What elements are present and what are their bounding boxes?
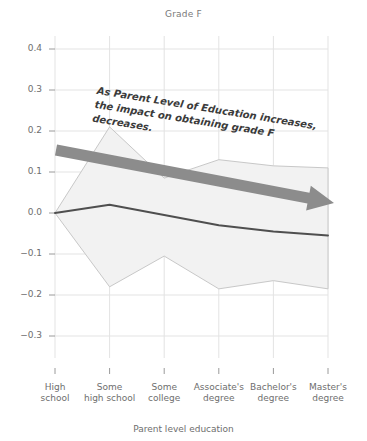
y-tick-label: −0.3 bbox=[8, 330, 42, 340]
y-tick-label: 0.3 bbox=[8, 84, 42, 94]
y-tick-label: 0.2 bbox=[8, 125, 42, 135]
y-tick-label: 0.0 bbox=[8, 207, 42, 217]
x-tick-label-5: Master'sdegree bbox=[292, 382, 364, 404]
x-tick-marks bbox=[55, 368, 328, 374]
plot-area bbox=[0, 0, 367, 441]
y-tick-label: −0.2 bbox=[8, 289, 42, 299]
y-tick-label: −0.1 bbox=[8, 248, 42, 258]
y-tick-label: 0.4 bbox=[8, 43, 42, 53]
y-tick-label: 0.1 bbox=[8, 166, 42, 176]
x-tick-label-line: degree bbox=[292, 393, 364, 404]
confidence-band bbox=[55, 127, 328, 289]
x-tick-label-line: Master's bbox=[292, 382, 364, 393]
chart-container: Grade F 0.40.30.20.10.0−0.1−0.2−0.3 High… bbox=[0, 0, 367, 441]
x-axis-title: Parent level education bbox=[0, 424, 367, 434]
y-tick-marks bbox=[49, 49, 55, 336]
